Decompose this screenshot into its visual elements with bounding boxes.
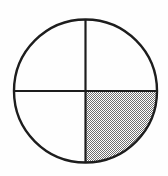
figure-background [0, 0, 168, 176]
quartered-circle-diagram [0, 0, 168, 176]
figure-container: Circle divided into four quadrants with … [0, 0, 168, 176]
